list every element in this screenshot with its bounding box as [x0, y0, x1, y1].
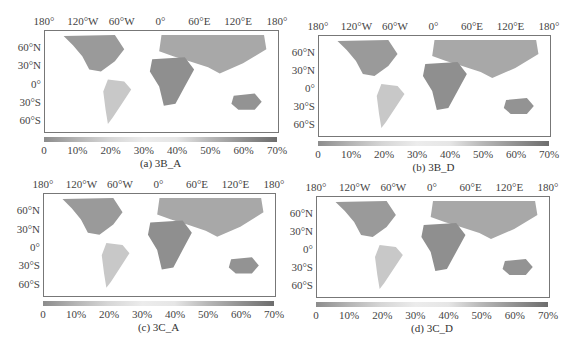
colorbar-tick-label: 50% — [473, 148, 493, 160]
colorbar-tick-label: 60% — [505, 309, 525, 321]
colorbar-tick-label: 20% — [374, 148, 394, 160]
longitude-label: 180° — [267, 15, 288, 27]
colorbar-tick-label: 20% — [100, 144, 120, 156]
colorbar-tick-label: 30% — [407, 148, 427, 160]
longitude-label: 120°E — [222, 178, 250, 190]
latitude-label: 30°N — [275, 64, 315, 76]
latitude-label: 30°S — [273, 261, 313, 273]
longitude-label: 60°W — [109, 15, 135, 27]
world-map-heatmap — [316, 196, 550, 298]
colorbar-tick-label: 20% — [99, 308, 119, 320]
latitude-label: 0° — [0, 241, 40, 253]
colorbar-tick-label: 60% — [231, 308, 251, 320]
longitude-label: 60°E — [188, 15, 210, 27]
longitude-label: 180° — [33, 178, 54, 190]
colorbar — [318, 141, 549, 146]
colorbar-tick-label: 30% — [132, 308, 152, 320]
longitude-label: 60°E — [460, 181, 482, 193]
panel-caption: (d) 3C_D — [411, 322, 453, 334]
panel-caption: (c) 3C_A — [138, 321, 179, 333]
longitude-label: 0° — [154, 178, 164, 190]
map-panel-d: 180°120°W60°W0°60°E120°E180°60°N30°N0°30… — [290, 170, 579, 345]
latitude-label: 30°N — [0, 223, 40, 235]
colorbar — [316, 302, 548, 307]
colorbar-tick-label: 20% — [372, 309, 392, 321]
latitude-label: 60°N — [275, 46, 315, 58]
colorbar-tick-label: 0 — [313, 309, 319, 321]
longitude-label: 120°W — [66, 178, 97, 190]
colorbar — [43, 301, 274, 306]
colorbar-tick-label: 0 — [315, 148, 321, 160]
longitude-label: 60°E — [186, 178, 208, 190]
world-map-heatmap — [43, 193, 276, 297]
colorbar-tick-label: 30% — [134, 144, 154, 156]
colorbar-tick-label: 30% — [405, 309, 425, 321]
latitude-label: 30°N — [1, 59, 41, 71]
longitude-label: 120°W — [339, 181, 370, 193]
colorbar-tick-label: 0 — [41, 144, 47, 156]
longitude-label: 120°E — [224, 15, 252, 27]
longitude-label: 180° — [308, 20, 329, 32]
latitude-label: 30°S — [275, 100, 315, 112]
colorbar-tick-label: 50% — [198, 308, 218, 320]
longitude-label: 120°W — [341, 20, 372, 32]
colorbar-tick-label: 50% — [472, 309, 492, 321]
world-map-heatmap — [318, 35, 551, 137]
latitude-label: 60°S — [273, 279, 313, 291]
map-panel-a: 180°120°W60°W0°60°E120°E180°60°N30°N0°30… — [0, 0, 290, 175]
colorbar-tick-label: 10% — [339, 309, 359, 321]
longitude-label: 60°W — [382, 20, 408, 32]
latitude-label: 60°N — [0, 204, 40, 216]
colorbar-tick-label: 70% — [264, 308, 284, 320]
colorbar-tick-label: 40% — [165, 308, 185, 320]
map-panel-c: 180°120°W60°W0°60°E120°E180°60°N30°N0°30… — [0, 170, 290, 345]
latitude-label: 0° — [1, 78, 41, 90]
longitude-label: 60°E — [461, 20, 483, 32]
colorbar-tick-label: 40% — [440, 148, 460, 160]
colorbar-tick-label: 70% — [267, 144, 287, 156]
latitude-label: 30°S — [1, 96, 41, 108]
panel-caption: (a) 3B_A — [140, 157, 181, 169]
longitude-label: 60°W — [380, 181, 406, 193]
world-map-heatmap — [44, 30, 279, 133]
longitude-label: 120°E — [497, 20, 525, 32]
latitude-label: 30°S — [0, 259, 40, 271]
latitude-label: 60°N — [1, 41, 41, 53]
latitude-label: 60°S — [1, 114, 41, 126]
colorbar-tick-label: 60% — [506, 148, 526, 160]
latitude-label: 60°N — [273, 207, 313, 219]
colorbar-tick-label: 70% — [538, 309, 558, 321]
longitude-label: 180° — [34, 15, 55, 27]
colorbar-tick-label: 70% — [539, 148, 559, 160]
colorbar — [44, 137, 277, 142]
latitude-label: 60°S — [0, 278, 40, 290]
colorbar-tick-label: 10% — [341, 148, 361, 160]
latitude-label: 0° — [275, 82, 315, 94]
map-panel-b: 180°120°W60°W0°60°E120°E180°60°N30°N0°30… — [290, 0, 579, 175]
longitude-label: 180° — [306, 181, 327, 193]
longitude-label: 0° — [427, 181, 437, 193]
colorbar-tick-label: 40% — [167, 144, 187, 156]
latitude-label: 30°N — [273, 225, 313, 237]
longitude-label: 0° — [156, 15, 166, 27]
colorbar-tick-label: 10% — [66, 308, 86, 320]
longitude-label: 0° — [429, 20, 439, 32]
colorbar-tick-label: 40% — [438, 309, 458, 321]
colorbar-tick-label: 10% — [67, 144, 87, 156]
longitude-label: 120°E — [496, 181, 524, 193]
latitude-label: 60°S — [275, 118, 315, 130]
colorbar-tick-label: 50% — [200, 144, 220, 156]
longitude-label: 180° — [264, 178, 285, 190]
colorbar-tick-label: 0 — [40, 308, 46, 320]
colorbar-tick-label: 60% — [234, 144, 254, 156]
longitude-label: 180° — [539, 20, 560, 32]
longitude-label: 180° — [538, 181, 559, 193]
latitude-label: 0° — [273, 243, 313, 255]
longitude-label: 120°W — [67, 15, 98, 27]
longitude-label: 60°W — [107, 178, 133, 190]
